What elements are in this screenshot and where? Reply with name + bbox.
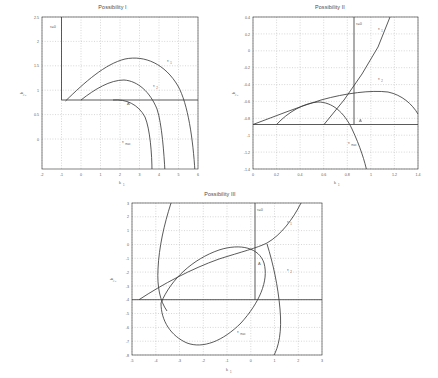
panel-possibility-3: Possibility III	[101, 191, 339, 377]
svg-text:-0.8: -0.8	[244, 117, 250, 121]
x-ticks-2: 0 0.2 0.4 0.6 0.8 1 1.2 1.4	[252, 173, 421, 177]
svg-text:-8: -8	[126, 354, 129, 358]
svg-text:0: 0	[127, 243, 129, 247]
tau-max-label-1: τ	[122, 139, 124, 144]
figure-root: Possibility I	[0, 0, 438, 378]
svg-text:-2: -2	[202, 359, 205, 363]
svg-text:1: 1	[100, 173, 102, 177]
svg-text:0.4: 0.4	[298, 173, 303, 177]
tau-1-sub-1: 1	[170, 61, 172, 65]
y-ticks-1: 2.5 2 1.5 1 0.5 0	[34, 16, 39, 142]
svg-text:1: 1	[370, 173, 372, 177]
tau-zero-label-1: τ=0	[50, 25, 56, 29]
curve-tau-1-2	[324, 17, 390, 125]
point-a-label-2: A	[359, 118, 362, 123]
svg-text:-4: -4	[126, 298, 129, 302]
y-axis-label-2: k	[231, 91, 236, 94]
x-ticks-3: -5 -4 -3 -2 -1 0 1 2 3	[130, 359, 323, 363]
x-axis-label-sub-2: 1	[338, 183, 340, 187]
tau-1-sub-2: 1	[381, 29, 383, 33]
svg-text:3: 3	[321, 359, 323, 363]
svg-text:4: 4	[158, 173, 160, 177]
svg-text:1.5: 1.5	[34, 64, 39, 68]
point-a-label-3: A	[258, 261, 261, 266]
svg-text:1.2: 1.2	[392, 173, 397, 177]
point-a-label-1: A	[127, 101, 130, 106]
svg-text:-3: -3	[178, 359, 181, 363]
x-axis-label-1: k	[119, 180, 122, 185]
svg-text:-0.4: -0.4	[244, 83, 250, 87]
svg-text:-1.2: -1.2	[244, 151, 250, 155]
svg-text:-4: -4	[154, 359, 157, 363]
y-ticks-3: 3 2 1 0 -1 -2 -3 -4 -5 -6 -7 -8	[126, 202, 129, 358]
svg-text:-5: -5	[130, 359, 133, 363]
x-axis-label-2: k	[334, 180, 337, 185]
svg-text:0.6: 0.6	[321, 173, 326, 177]
svg-text:-1: -1	[126, 257, 129, 261]
tau-1-sub-3: 1	[290, 222, 292, 226]
panel-possibility-2: Possibility II	[226, 4, 434, 188]
panel-1-title: Possibility I	[10, 4, 215, 10]
y-axis-label-1: k	[19, 91, 24, 94]
tau-max-label-2: τ	[348, 140, 350, 145]
y-axis-label-3: k	[109, 277, 114, 280]
x-ticks-1: -2 -1 0 1 2 3 4 5 6	[40, 173, 199, 177]
tau-2-sub-1: 2	[156, 86, 158, 90]
svg-text:2: 2	[119, 173, 121, 177]
svg-text:-6: -6	[126, 326, 129, 330]
svg-text:1.4: 1.4	[416, 173, 421, 177]
panel-2-title: Possibility II	[226, 4, 434, 10]
x-axis-label-3: k	[226, 367, 229, 372]
tau-2-label-2: τ	[378, 76, 380, 81]
tau-2-sub-3: 2	[290, 270, 292, 274]
tau-1-label-1: τ	[167, 58, 169, 63]
curve-left-branch-3	[158, 203, 171, 311]
tau-2-sub-2: 2	[381, 79, 383, 83]
curve-tau-max-2	[277, 102, 367, 172]
svg-text:6: 6	[197, 173, 199, 177]
svg-text:1: 1	[37, 89, 39, 93]
tau-max-label-3: τ	[237, 329, 239, 334]
grid-lines-1	[42, 17, 198, 169]
y-ticks-2: 0.4 0.2 0 -0.2 -0.4 -0.6 -0.8 -1 -1.2 -1…	[244, 16, 250, 172]
svg-text:-1: -1	[60, 173, 63, 177]
panel-3-title: Possibility III	[101, 191, 339, 197]
curve-tau-2-1	[81, 80, 165, 172]
svg-text:-5: -5	[126, 312, 129, 316]
svg-text:0: 0	[252, 173, 254, 177]
svg-text:2: 2	[297, 359, 299, 363]
tau-zero-label-2: τ=0	[356, 22, 362, 26]
tau-max-sub-1: max	[125, 143, 131, 146]
tau-1-label-2: τ	[378, 26, 380, 31]
svg-text:0.2: 0.2	[245, 33, 250, 37]
panel-possibility-1: Possibility I	[10, 4, 215, 188]
svg-text:1: 1	[274, 359, 276, 363]
svg-text:-3: -3	[126, 285, 129, 289]
svg-text:1: 1	[127, 229, 129, 233]
svg-text:-2: -2	[126, 271, 129, 275]
svg-text:0: 0	[37, 138, 39, 142]
tau-zero-label-3: τ=0	[257, 208, 263, 212]
curve-tau-max-1	[113, 100, 152, 172]
svg-text:-7: -7	[126, 340, 129, 344]
x-axis-label-sub-1: 1	[123, 183, 125, 187]
svg-text:3: 3	[139, 173, 141, 177]
curve-tau-2-3	[267, 244, 281, 357]
svg-text:-1: -1	[247, 134, 250, 138]
curve-tau-zero-3	[255, 203, 322, 300]
curve-tau-1-1	[66, 58, 196, 172]
svg-text:-1: -1	[225, 359, 228, 363]
svg-text:0.8: 0.8	[345, 173, 350, 177]
svg-text:2: 2	[37, 40, 39, 44]
svg-text:0: 0	[248, 49, 250, 53]
tau-max-sub-2: max	[351, 144, 357, 147]
svg-text:0: 0	[80, 173, 82, 177]
svg-text:-2: -2	[40, 173, 43, 177]
svg-text:0.2: 0.2	[274, 173, 279, 177]
svg-text:5: 5	[178, 173, 180, 177]
svg-text:-0.2: -0.2	[244, 66, 250, 70]
tau-2-label-1: τ	[153, 83, 155, 88]
tau-2-label-3: τ	[287, 267, 289, 272]
tau-max-sub-3: max	[240, 333, 246, 336]
grid-lines-3	[132, 203, 322, 355]
